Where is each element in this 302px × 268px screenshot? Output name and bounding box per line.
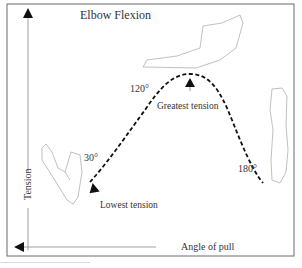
lowest-tension-label: Lowest tension [100, 200, 158, 210]
angle-label-30: 30° [84, 152, 98, 163]
angle-axis-arrow-icon [14, 242, 24, 252]
greatest-tension-arrow-icon [185, 78, 195, 87]
x-axis-label: Angle of pull [181, 241, 235, 252]
page-underline [0, 262, 90, 263]
lowest-tension-arrow-icon [86, 183, 100, 197]
diagram-title: Elbow Flexion [80, 8, 151, 22]
y-axis-label: Tension [22, 168, 33, 200]
arm-30-degrees-sketch-detail [65, 172, 70, 180]
elbow-flexion-diagram: Elbow Flexion Tension Angle of pull 30° … [0, 0, 302, 268]
greatest-tension-label: Greatest tension [157, 101, 219, 111]
tension-axis-arrow-icon [23, 8, 33, 18]
arm-180-degrees-sketch [270, 88, 288, 183]
angle-label-120: 120° [130, 83, 149, 94]
arm-30-degrees-sketch [42, 144, 82, 204]
angle-label-180: 180° [238, 163, 257, 174]
diagram-frame [7, 4, 294, 256]
arm-90-degrees-sketch [143, 15, 243, 68]
